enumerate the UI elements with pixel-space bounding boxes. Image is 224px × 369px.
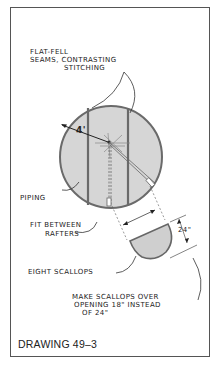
label-seams-3: STITCHING <box>64 64 105 72</box>
label-seams-1: FLAT-FELL <box>30 48 68 56</box>
label-fit-2: RAFTERS <box>45 230 79 238</box>
label-scallops: EIGHT SCALLOPS <box>28 268 93 276</box>
label-note-1: MAKE SCALLOPS OVER <box>72 293 159 301</box>
label-fit-1: FIT BETWEEN <box>30 221 82 229</box>
label-piping: PIPING <box>20 194 46 202</box>
label-radius: 4' <box>76 126 86 134</box>
scallop <box>130 224 172 259</box>
label-height: 24" <box>178 226 191 234</box>
label-note-2: OPENING 18" INSTEAD <box>74 301 161 309</box>
figure-caption: DRAWING 49–3 <box>18 338 97 350</box>
label-seams-2: SEAMS, CONTRASTING <box>30 56 117 64</box>
label-note-3: OF 24" <box>82 309 108 317</box>
